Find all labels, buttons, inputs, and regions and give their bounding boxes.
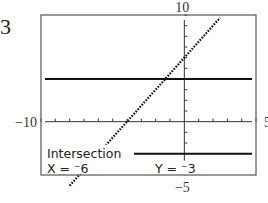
ymin-label: −5 — [175, 180, 190, 195]
intersection-y-readout: Y = ⁻3 — [154, 161, 196, 176]
xmax-label: 5 — [264, 115, 268, 130]
intersection-x-readout: X = ⁻6 — [47, 161, 89, 176]
ymax-label: 10 — [175, 0, 189, 15]
calculator-graph: 10−5−105IntersectionX = ⁻6Y = ⁻3 — [0, 0, 268, 203]
intersection-label: Intersection — [47, 146, 121, 161]
xmin-label: −10 — [15, 115, 37, 130]
